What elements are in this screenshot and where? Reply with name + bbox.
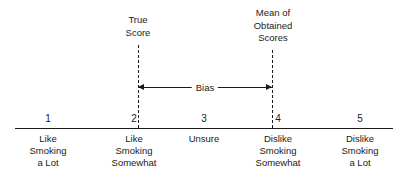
category-label-4: Dislike Smoking Somewhat xyxy=(256,133,301,170)
bias-arrow-left-head-icon xyxy=(138,84,144,90)
category-label-2: Like Smoking Somewhat xyxy=(112,133,157,170)
category-label-3-line1: Unsure xyxy=(189,133,220,145)
category-label-2-line1: Like xyxy=(112,133,157,145)
category-label-1: Like Smoking a Lot xyxy=(30,133,67,170)
mean-obtained-callout-line2: Obtained xyxy=(254,20,293,33)
true-score-callout-line1: True xyxy=(126,14,151,27)
category-label-5-line3: a Lot xyxy=(342,157,379,169)
category-label-2-line2: Smoking xyxy=(112,145,157,157)
category-label-1-line1: Like xyxy=(30,133,67,145)
true-score-callout: True Score xyxy=(126,14,151,39)
tick-number-4: 4 xyxy=(275,113,281,124)
category-label-5: Dislike Smoking a Lot xyxy=(342,133,379,170)
tick-number-5: 5 xyxy=(357,113,363,124)
bias-arrow-right-head-icon xyxy=(266,84,272,90)
category-label-4-line2: Smoking xyxy=(256,145,301,157)
category-label-1-line3: a Lot xyxy=(30,157,67,169)
mean-obtained-callout-line1: Mean of xyxy=(254,7,293,20)
category-label-3: Unsure xyxy=(189,133,220,145)
bias-number-line-figure: True Score Mean of Obtained Scores Bias … xyxy=(0,0,408,179)
category-label-5-line1: Dislike xyxy=(342,133,379,145)
tick-number-1: 1 xyxy=(45,113,51,124)
bias-label: Bias xyxy=(192,82,218,93)
mean-obtained-scores-marker-line xyxy=(272,50,273,128)
scale-axis-line xyxy=(15,128,393,129)
category-label-5-line2: Smoking xyxy=(342,145,379,157)
category-label-4-line1: Dislike xyxy=(256,133,301,145)
mean-obtained-scores-callout: Mean of Obtained Scores xyxy=(254,7,293,45)
tick-number-3: 3 xyxy=(201,113,207,124)
category-label-1-line2: Smoking xyxy=(30,145,67,157)
tick-number-2: 2 xyxy=(131,113,137,124)
mean-obtained-callout-line3: Scores xyxy=(254,32,293,45)
true-score-callout-line2: Score xyxy=(126,27,151,40)
category-label-4-line3: Somewhat xyxy=(256,157,301,169)
category-label-2-line3: Somewhat xyxy=(112,157,157,169)
